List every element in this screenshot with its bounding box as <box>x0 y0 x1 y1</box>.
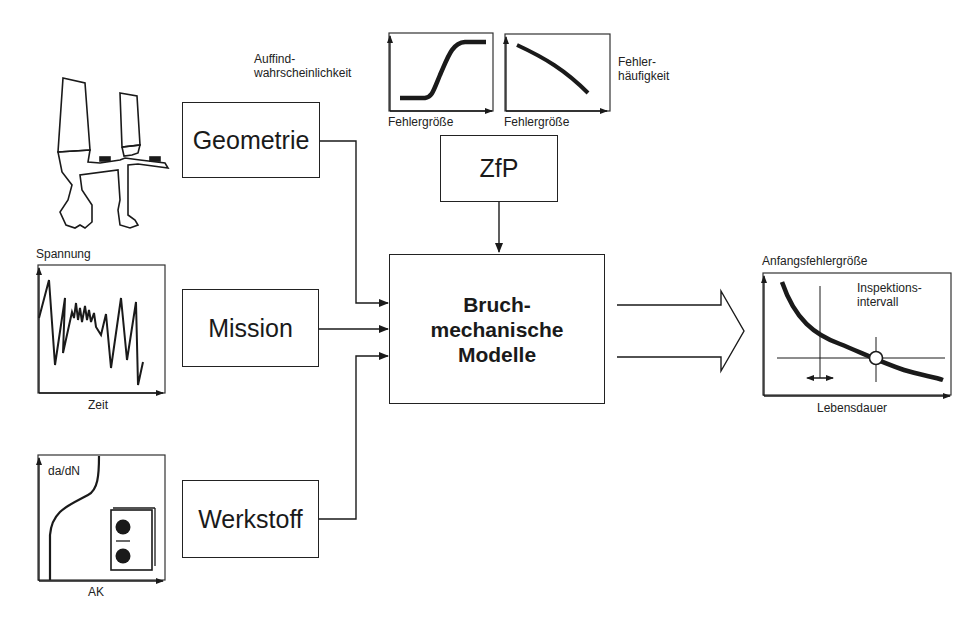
crack-xlabel: AK <box>88 585 104 599</box>
ndt-label: ZfP <box>480 154 519 183</box>
fracture-mechanics-label: Bruch- mechanische Modelle <box>430 292 563 367</box>
turbine-blade-icon <box>58 78 168 228</box>
load-spectrum-chart <box>38 265 165 393</box>
freq-xlabel: Fehlergröße <box>504 115 569 129</box>
output-arrow-icon <box>617 291 744 371</box>
fracture-mechanics-box: Bruch- mechanische Modelle <box>389 254 605 404</box>
ndt-box: ZfP <box>440 135 558 202</box>
result-xlabel: Lebensdauer <box>817 401 887 415</box>
result-ylabel: Anfangsfehlergröße <box>762 254 867 268</box>
load-ylabel: Spannung <box>36 247 91 261</box>
load-xlabel: Zeit <box>88 398 108 412</box>
freq-ylabel: Fehler- häufigkeit <box>618 55 669 83</box>
geometry-label: Geometrie <box>193 126 310 155</box>
geometry-box: Geometrie <box>182 102 320 178</box>
material-label: Werkstoff <box>198 505 303 534</box>
material-box: Werkstoff <box>182 480 319 558</box>
pod-ylabel: Auffind- wahrscheinlichkeit <box>254 52 351 80</box>
mission-label: Mission <box>208 314 293 343</box>
defect-frequency-chart <box>505 34 610 111</box>
mission-box: Mission <box>182 289 319 367</box>
pod-xlabel: Fehlergröße <box>388 115 453 129</box>
crack-ylabel: da/dN <box>48 464 80 478</box>
inspection-interval-label: Inspektions- intervall <box>857 281 922 309</box>
pod-chart <box>389 33 493 111</box>
specimen-icon <box>111 508 155 570</box>
